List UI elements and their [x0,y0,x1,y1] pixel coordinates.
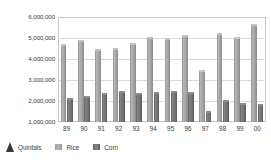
bar-face [147,39,153,122]
x-axis-tick-label: 00 [246,125,268,132]
bar-face [182,37,188,122]
corn-swatch-icon [93,144,100,150]
bar-face [188,94,194,122]
bar-top-cap [165,38,171,40]
bar-top-cap [240,103,246,105]
legend-label-quintals: Quintals [18,144,41,151]
bar-top-cap [206,111,212,113]
bar-rice-98[interactable] [217,35,223,122]
bar-top-cap [113,48,119,50]
bar-rice-99[interactable] [234,39,240,122]
bar-top-cap [217,33,223,35]
bar-chart: 6,000,000 5,000,000 4,000,000 3,000,000 … [0,0,271,160]
bar-corn-89[interactable] [67,100,73,122]
bar-rice-90[interactable] [78,42,84,122]
bar-face [217,35,223,122]
bar-face [199,72,205,122]
y-axis-tick-label: 4,000,000 [3,56,55,62]
bar-face [240,105,246,122]
bar-corn-96[interactable] [188,94,194,122]
rice-swatch-icon [55,144,62,150]
bar-group [147,17,159,122]
y-axis-tick-label: 5,000,000 [3,35,55,41]
bar-top-cap [171,91,177,93]
bar-rice-96[interactable] [182,37,188,122]
y-axis-tick-label: 2,000,000 [3,98,55,104]
bar-face [67,100,73,122]
bar-group [130,17,142,122]
bar-group [95,17,107,122]
bar-corn-98[interactable] [223,102,229,122]
bar-face [119,93,125,122]
cone-marker-icon [6,142,14,152]
bar-top-cap [78,40,84,42]
bar-top-cap [102,93,108,95]
legend-item-rice[interactable]: Rice [55,144,79,151]
bar-top-cap [84,96,90,98]
bar-face [136,95,142,122]
bar-rice-97[interactable] [199,72,205,122]
bar-top-cap [119,91,125,93]
bar-corn-92[interactable] [119,93,125,122]
legend-label-rice: Rice [66,144,79,151]
bar-group [61,17,73,122]
bar-top-cap [130,43,136,45]
bar-rice-92[interactable] [113,50,119,122]
bar-top-cap [67,98,73,100]
bars-layer [58,17,266,122]
bar-corn-00[interactable] [258,106,264,122]
bar-face [251,26,257,122]
legend-item-corn[interactable]: Corn [93,144,118,151]
bar-group [113,17,125,122]
plot-area [58,17,266,122]
bar-face [113,50,119,122]
bar-corn-95[interactable] [171,93,177,122]
bar-rice-95[interactable] [165,40,171,122]
bar-rice-93[interactable] [130,45,136,122]
bar-top-cap [223,100,229,102]
bar-group [165,17,177,122]
bar-top-cap [61,44,67,46]
y-axis-tick-label: 1,000,000 [3,119,55,125]
legend-label-corn: Corn [104,144,118,151]
bar-corn-91[interactable] [102,95,108,122]
bar-top-cap [147,37,153,39]
bar-face [234,39,240,122]
bar-corn-94[interactable] [154,94,160,122]
chart-legend: Quintals Rice Corn [6,140,132,154]
bar-face [154,94,160,122]
bar-face [258,106,264,122]
bar-group [217,17,229,122]
legend-item-quintals: Quintals [6,142,41,152]
bar-rice-91[interactable] [95,51,101,122]
bar-group [78,17,90,122]
bar-face [165,40,171,122]
bar-face [84,98,90,122]
bar-face [223,102,229,122]
bar-top-cap [95,49,101,51]
bar-top-cap [234,37,240,39]
bar-corn-99[interactable] [240,105,246,122]
bar-top-cap [182,35,188,37]
bar-rice-94[interactable] [147,39,153,122]
bar-rice-89[interactable] [61,46,67,122]
bar-rice-00[interactable] [251,26,257,122]
bar-corn-90[interactable] [84,98,90,122]
bar-top-cap [199,70,205,72]
bar-group [251,17,263,122]
bar-top-cap [188,92,194,94]
bar-face [206,113,212,122]
bar-corn-93[interactable] [136,95,142,122]
bar-top-cap [154,92,160,94]
bar-face [95,51,101,122]
bar-corn-97[interactable] [206,113,212,122]
bar-face [61,46,67,122]
bar-face [102,95,108,122]
y-axis-tick-label: 6,000,000 [3,14,55,20]
bar-top-cap [136,93,142,95]
bar-group [182,17,194,122]
bar-face [130,45,136,122]
bar-group [234,17,246,122]
bar-group [199,17,211,122]
bar-face [171,93,177,122]
